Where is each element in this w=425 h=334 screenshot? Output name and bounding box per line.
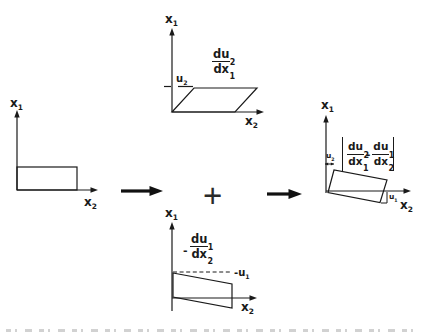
label-sub: 1 [173, 19, 178, 28]
initial-x1-axis-label: x1 [10, 97, 23, 109]
label-sub: 2 [183, 79, 187, 86]
label-main: x [84, 195, 92, 209]
fraction-denominator: dx1 [347, 155, 363, 167]
shear2-parallelogram [173, 273, 232, 308]
shear2-x1-axis-arrowhead [169, 222, 174, 230]
numerator-main: du [373, 140, 388, 152]
label-main: x [165, 12, 173, 26]
rotation-magnitude-expression: du2 dx1 - du1 dx2 [342, 137, 394, 171]
label-sub: 1 [173, 213, 178, 222]
numerator-main: du [191, 232, 207, 246]
denominator-main: dx [213, 62, 229, 76]
shear2-gradient-minus-sign: - [183, 245, 188, 256]
label-sub: 2 [253, 121, 258, 130]
rotation-x1-axis-label: x1 [321, 99, 334, 111]
label-sub: 2 [249, 307, 254, 316]
cropped-caption-line [6, 329, 419, 332]
denominator-main: dx [191, 247, 207, 261]
initial-x2-axis-arrowhead [91, 187, 99, 192]
numerator-main: du [213, 47, 229, 61]
label-main: x [321, 98, 329, 112]
label-main: x [165, 206, 173, 220]
label-sub: 1 [329, 105, 334, 114]
plus-operator: + [203, 179, 222, 212]
transform-arrow-2-head [289, 189, 303, 199]
label-main: x [241, 300, 249, 314]
shear1-velocity-gradient-fraction: du2 dx1 [212, 48, 230, 75]
initial-fluid-element-rectangle [17, 167, 77, 190]
fraction-numerator: du2 [212, 48, 230, 62]
shear1-u2-label: u2 [176, 74, 187, 84]
label-sub: 1 [245, 273, 249, 280]
label-sub: 2 [331, 157, 334, 162]
fraction-numerator: du1 [372, 141, 389, 154]
shear1-x2-axis-arrowhead [257, 109, 265, 114]
label-main: -u [234, 267, 245, 278]
shear2-x1-axis-label: x1 [165, 207, 178, 219]
initial-x2-axis-label: x2 [84, 196, 97, 208]
expression-fraction-2: du1 dx2 [372, 141, 389, 166]
expression-fraction-1: du2 dx1 [347, 141, 364, 166]
shear1-x1-axis-arrowhead [169, 28, 174, 36]
fraction-denominator: dx2 [190, 247, 208, 260]
label-main: x [245, 114, 253, 128]
numerator-main: du [348, 140, 363, 152]
fraction-numerator: du1 [190, 233, 208, 247]
label-sub: 2 [92, 202, 97, 211]
label-sub: 2 [408, 205, 413, 214]
figure-deformation-decomposition: x1 x2 x1 x2 u2 du2 dx1 + x1 x2 -u1 - du1… [0, 0, 425, 334]
shear2-x2-axis-label: x2 [241, 301, 254, 313]
shear2-x2-axis-arrowhead [250, 295, 258, 300]
shear1-parallelogram [172, 88, 257, 112]
rotation-u2-measure-right-arrowhead [331, 163, 334, 166]
fraction-numerator: du2 [347, 141, 364, 154]
rotation-u1-label: u1 [389, 193, 398, 201]
shear1-x2-axis-label: x2 [245, 115, 258, 127]
shear2-velocity-gradient-fraction: du1 dx2 [190, 233, 208, 260]
label-sub: 1 [394, 198, 397, 203]
rotation-x2-axis-label: x2 [400, 199, 413, 211]
shear1-x1-axis-label: x1 [165, 13, 178, 25]
label-main: x [400, 198, 408, 212]
denominator-main: dx [348, 155, 362, 167]
transform-arrow-1-head [150, 186, 164, 196]
fraction-denominator: dx1 [212, 62, 230, 75]
label-sub: 1 [18, 103, 23, 112]
rotation-x1-axis-arrowhead [323, 115, 328, 123]
rotation-u2-label: u2 [326, 152, 335, 160]
fraction-denominator: dx2 [373, 155, 389, 167]
denominator-main: dx [374, 155, 388, 167]
shear2-u1-label: -u1 [234, 268, 250, 278]
rotation-rotated-rectangle [328, 170, 387, 203]
rotation-x2-axis-arrowhead [404, 188, 412, 193]
label-main: x [10, 96, 18, 110]
